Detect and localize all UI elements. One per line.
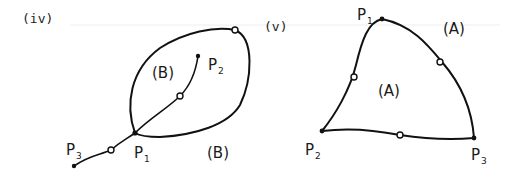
svg-text:1: 1 bbox=[367, 16, 373, 26]
region-label-outer: (B) bbox=[207, 144, 229, 162]
point-p3-dot bbox=[472, 136, 477, 141]
svg-text:P: P bbox=[66, 141, 75, 159]
diagram-canvas: (iv) (B) (B) P 2 P 1 P 3 (v) bbox=[0, 0, 507, 177]
panel-iv-label: (iv) bbox=[22, 11, 53, 26]
curve-p1-p3 bbox=[74, 133, 135, 166]
region-label-inner: (A) bbox=[378, 82, 400, 100]
svg-text:2: 2 bbox=[218, 66, 224, 76]
svg-text:P: P bbox=[471, 146, 480, 164]
region-label-inner: (B) bbox=[152, 64, 174, 82]
region-label-outer: (A) bbox=[443, 20, 465, 38]
panel-iv: (iv) (B) (B) P 2 P 1 P 3 bbox=[22, 11, 250, 168]
svg-text:P: P bbox=[208, 56, 217, 74]
point-p2-dot bbox=[320, 129, 325, 134]
svg-text:1: 1 bbox=[144, 154, 150, 164]
svg-text:2: 2 bbox=[315, 151, 321, 161]
point-p3-dot bbox=[72, 164, 76, 168]
svg-text:3: 3 bbox=[481, 156, 487, 166]
open-circle-marker bbox=[232, 27, 238, 33]
label-p2: P 2 bbox=[305, 141, 321, 161]
point-p1-dot bbox=[380, 17, 385, 22]
label-p2: P 2 bbox=[208, 56, 224, 76]
open-circle-marker bbox=[437, 59, 443, 65]
point-p2-dot bbox=[196, 54, 200, 58]
open-circle-marker bbox=[351, 74, 357, 80]
label-p1: P 1 bbox=[134, 144, 150, 164]
panel-v: (v) (A) (A) P 1 P 2 P 3 bbox=[264, 6, 487, 166]
label-p3: P 3 bbox=[66, 141, 82, 161]
svg-text:P: P bbox=[134, 144, 143, 162]
svg-text:3: 3 bbox=[76, 151, 82, 161]
open-circle-marker bbox=[177, 93, 183, 99]
open-circle-marker bbox=[108, 147, 114, 153]
label-p3: P 3 bbox=[471, 146, 487, 166]
svg-text:P: P bbox=[357, 6, 366, 24]
point-p1-dot bbox=[132, 130, 137, 135]
open-circle-marker bbox=[397, 132, 403, 138]
panel-v-label: (v) bbox=[264, 19, 287, 34]
svg-text:P: P bbox=[305, 141, 314, 159]
label-p1: P 1 bbox=[357, 6, 373, 26]
